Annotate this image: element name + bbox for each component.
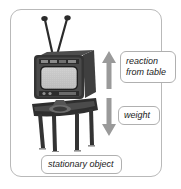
label-weight-text: weight (124, 110, 150, 121)
antenna-right (57, 15, 71, 55)
tv-screen (40, 66, 78, 90)
label-reaction-from-table: reaction from table (120, 51, 176, 83)
table-leg-4 (89, 109, 94, 145)
table-leg-3 (75, 114, 79, 150)
label-reaction-line2: from table (126, 67, 166, 78)
label-stationary-text: stationary object (48, 159, 114, 170)
label-stationary-object: stationary object (41, 155, 122, 174)
label-weight: weight (118, 106, 160, 125)
label-reaction-line1: reaction (126, 56, 158, 67)
reaction-force-arrow (100, 50, 118, 90)
weight-force-arrow (100, 97, 118, 137)
table-leg-1 (38, 114, 45, 148)
television-on-table-illustration (26, 12, 106, 152)
free-body-diagram-figure: reaction from table weight stationary ob… (0, 0, 181, 189)
antenna-left (41, 16, 53, 56)
table-top (32, 98, 98, 116)
table-leg-2 (52, 116, 57, 151)
